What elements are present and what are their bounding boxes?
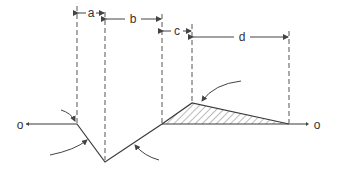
dimension-d: d [193,30,288,44]
dimension-label-a: a [88,6,95,20]
dimension-b: b [106,12,161,26]
endpoint-left: o [17,118,24,132]
hatched-region [162,103,289,124]
curved-arrow-3-icon [135,145,159,160]
curved-arrow-1-icon [61,110,75,121]
dimension-c: c [163,24,191,38]
profile-diagram: a b c d o o [0,0,337,174]
dimension-label-b: b [130,12,137,26]
dimension-label-c: c [174,24,180,38]
endpoint-right-arrow-icon [306,122,309,126]
curved-arrow-4-icon [202,81,241,101]
endpoint-left-arrow-icon [26,122,29,126]
endpoint-right: o [314,118,321,132]
curved-arrow-2-icon [50,140,87,155]
dimension-label-d: d [239,30,246,44]
dimension-a: a [78,6,104,20]
